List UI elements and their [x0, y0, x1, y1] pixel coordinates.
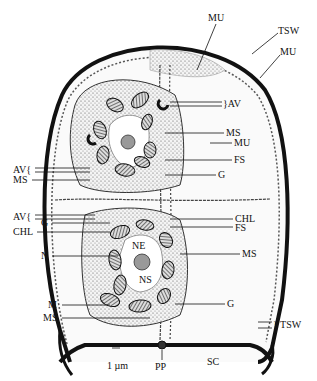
label-tsw-bottom: } TSW — [273, 320, 301, 330]
label-mu-mid-right: MU — [234, 138, 250, 148]
label-mu-right: MU — [280, 47, 296, 57]
label-av-upper-right: }AV — [223, 99, 241, 109]
label-pp: PP — [155, 362, 166, 372]
label-g-upper-right: G — [218, 170, 225, 180]
upper-protoplast — [70, 80, 183, 193]
label-fs-upper-right: FS — [234, 155, 245, 165]
label-ns: NS — [139, 275, 152, 285]
label-fs-lower-right: FS — [235, 223, 246, 233]
label-tsw-top: TSW — [278, 26, 299, 36]
label-mu-top: MU — [208, 13, 224, 23]
label-g-lower-left: G — [41, 218, 48, 228]
label-ms-lower-right: MS — [242, 249, 256, 259]
label-m: M — [48, 300, 57, 310]
label-g-lower-right: G — [227, 299, 234, 309]
cell-diagram — [0, 0, 317, 381]
lower-protoplast — [82, 208, 188, 326]
label-ms-lower-left: MS — [43, 313, 57, 323]
label-n: N — [41, 251, 48, 261]
label-ms-upper-left: MS — [13, 175, 27, 185]
label-sc: SC — [207, 357, 219, 367]
label-av-lower-left: AV{ — [13, 212, 31, 222]
scale-bar-label: 1 µm — [107, 361, 128, 371]
label-ne: NE — [132, 241, 145, 251]
label-chl-lower-left: CHL — [13, 227, 33, 237]
pit-plug — [158, 341, 166, 349]
